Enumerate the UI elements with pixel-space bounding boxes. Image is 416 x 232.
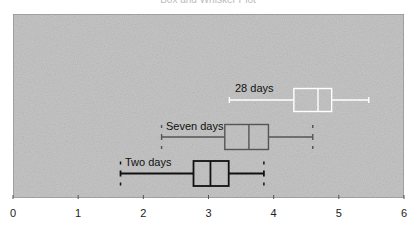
x-tick-label: 5 — [336, 207, 342, 219]
plot-area — [13, 14, 404, 198]
chart-title: Box and Whisker Plot — [160, 0, 256, 5]
series-label: 28 days — [235, 82, 274, 94]
x-tick-label: 2 — [140, 207, 146, 219]
x-tick-label: 3 — [205, 207, 211, 219]
series-label: Two days — [125, 156, 172, 168]
series-label: Seven days — [166, 120, 224, 132]
box-plot-chart: Box and Whisker Plot 0123456 Two daysSev… — [0, 0, 416, 232]
x-tick-label: 6 — [401, 207, 407, 219]
x-tick-label: 1 — [75, 207, 81, 219]
x-tick-label: 4 — [271, 207, 277, 219]
x-axis: 0123456 — [10, 195, 407, 219]
x-tick-label: 0 — [10, 207, 16, 219]
